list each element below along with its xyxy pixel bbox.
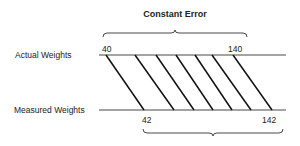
- measured-start-value: 42: [142, 115, 152, 125]
- mapping-line: [106, 55, 144, 110]
- top-brace: [103, 30, 247, 37]
- actual-weights-label: Actual Weights: [15, 50, 72, 60]
- mapping-line: [233, 55, 272, 110]
- actual-end-value: 140: [228, 44, 242, 54]
- mapping-line: [135, 55, 174, 110]
- mapping-line: [176, 55, 213, 110]
- bottom-brace: [143, 129, 283, 136]
- mapping-line: [195, 55, 232, 110]
- mapping-line: [212, 55, 251, 110]
- constant-error-diagram: Constant Error Actual Weights Measured W…: [0, 0, 300, 146]
- actual-start-value: 40: [102, 44, 112, 54]
- diagram-title: Constant Error: [143, 9, 207, 19]
- measured-end-value: 142: [262, 115, 276, 125]
- measured-weights-label: Measured Weights: [14, 105, 85, 115]
- mapping-lines: [106, 55, 272, 110]
- mapping-line: [156, 55, 194, 110]
